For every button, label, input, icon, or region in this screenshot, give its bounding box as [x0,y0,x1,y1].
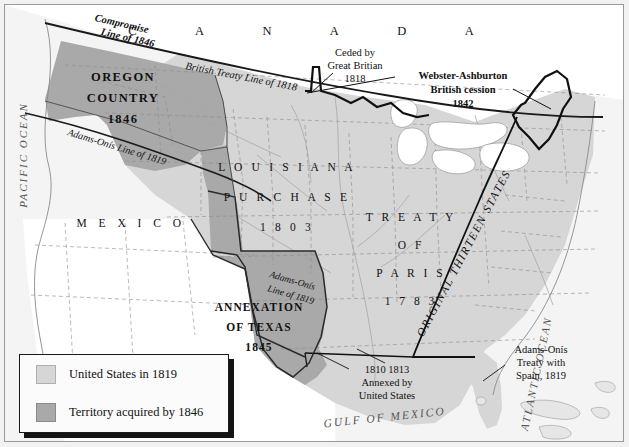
svg-text:O F: O F [398,239,425,251]
svg-text:British cession: British cession [430,84,495,95]
svg-text:Webster-Ashburton: Webster-Ashburton [419,70,508,81]
map-legend: United States in 1819 Territory acquired… [19,354,229,433]
legend-item-acquired-1846: Territory acquired by 1846 [20,393,228,431]
svg-text:ANNEXATION: ANNEXATION [215,301,304,313]
svg-text:1842: 1842 [453,98,474,109]
svg-text:1818: 1818 [345,73,366,84]
svg-text:1845: 1845 [245,341,272,353]
legend-label-us-1819: United States in 1819 [69,367,177,382]
label-adams-onis-treaty-spain: Adams-Onís Treaty with Spain, 1819 [514,344,567,381]
svg-text:PACIFIC OCEAN: PACIFIC OCEAN [17,102,29,209]
svg-text:1 8 0 3: 1 8 0 3 [260,221,314,233]
svg-text:1846: 1846 [108,112,139,126]
svg-text:OF TEXAS: OF TEXAS [226,321,291,333]
legend-label-acquired-1846: Territory acquired by 1846 [69,405,203,420]
svg-text:Annexed by: Annexed by [361,377,413,388]
svg-text:Spain, 1819: Spain, 1819 [516,370,566,381]
svg-text:Ceded by: Ceded by [335,47,376,58]
svg-text:1810 1813: 1810 1813 [365,364,410,375]
map-frame: C A N A D A M E X I C O PACIFIC OCEAN AT… [4,4,624,442]
svg-text:P U R C H A S E: P U R C H A S E [224,191,351,203]
svg-text:Treaty with: Treaty with [517,357,566,368]
map-page: C A N A D A M E X I C O PACIFIC OCEAN AT… [0,0,629,447]
svg-text:OREGON: OREGON [91,70,155,84]
svg-text:L O U I S I A N A: L O U I S I A N A [218,161,356,173]
svg-text:T R E A T Y: T R E A T Y [366,211,456,223]
legend-swatch-acquired-1846 [36,403,56,422]
legend-item-us-1819: United States in 1819 [20,355,228,393]
svg-text:COUNTRY: COUNTRY [87,91,160,105]
label-annexed-by-united-states: 1810 1813 Annexed by United States [359,364,415,401]
label-pacific-ocean: PACIFIC OCEAN [17,102,29,209]
svg-text:Adams-Onís: Adams-Onís [514,344,567,355]
label-canada: C A N A D A [128,24,502,38]
legend-swatch-us-1819 [36,365,56,384]
svg-text:United States: United States [359,390,415,401]
label-mexico: M E X I C O [76,217,185,229]
svg-text:P A R I S: P A R I S [376,267,445,279]
svg-text:Great Britian: Great Britian [327,60,383,71]
